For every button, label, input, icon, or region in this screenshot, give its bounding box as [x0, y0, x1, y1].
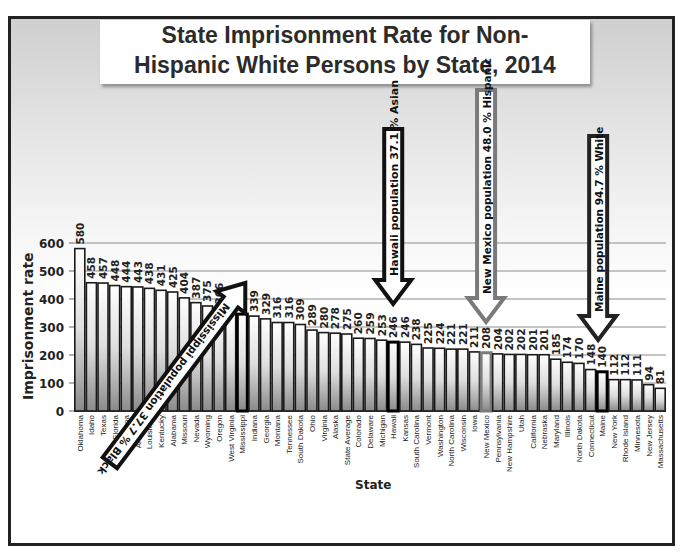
bar-arkansas [133, 287, 143, 411]
x-tick-label: Connecticut [587, 414, 596, 457]
x-tick-label: Texas [99, 415, 108, 436]
bar-value-label: 375 [201, 280, 213, 302]
bar-value-label: 174 [561, 336, 573, 358]
x-tick-label: North Dakota [575, 414, 584, 462]
bar-new-hampshire [504, 354, 514, 411]
x-tick-label: Massachusetts [656, 415, 665, 468]
x-tick-label: Wisconsin [459, 415, 468, 451]
bar-delaware [365, 338, 375, 411]
bar-ohio [307, 330, 317, 411]
x-tick-label: New Mexico [482, 414, 491, 458]
annotation-text: New Mexico population 48.0 % Hispanic [481, 58, 493, 294]
annotation-arrow: Maine population 94.7 % White [580, 127, 616, 340]
bar-value-label: 253 [376, 314, 388, 336]
x-tick-label: Delaware [366, 414, 375, 448]
bar-value-label: 457 [97, 257, 109, 279]
bar-maine [597, 372, 607, 411]
x-tick-label: New York [610, 414, 619, 449]
bar-value-label: 260 [352, 312, 364, 334]
bar-value-label: 202 [503, 329, 515, 351]
bar-value-label: 329 [260, 293, 272, 315]
bar-chart: 0100200300400500600 58045845744844444343… [0, 0, 685, 554]
x-tick-label: Oregon [215, 415, 224, 442]
bar-value-label: 140 [596, 346, 608, 368]
bar-value-label: 309 [294, 299, 306, 321]
bar-texas [98, 283, 108, 411]
bar-oklahoma [75, 249, 85, 411]
bar-value-label: 225 [422, 322, 434, 344]
x-tick-label: Washington [436, 415, 445, 457]
bar-iowa [469, 352, 479, 411]
y-tick-label: 500 [39, 265, 64, 279]
bar-virginia [319, 333, 329, 411]
x-tick-label: North Carolina [447, 414, 456, 466]
bar-mississippi [237, 314, 247, 411]
x-tick-label: Tennessee [285, 414, 294, 453]
x-tick-label: South Carolina [412, 414, 421, 467]
x-tick-label: Nebraska [540, 414, 549, 449]
x-tick-label: Wyoming [203, 415, 212, 448]
bar-value-label: 316 [283, 297, 295, 319]
x-tick-label: Missouri [180, 415, 189, 445]
bar-new-jersey [644, 385, 654, 411]
x-tick-label: Indiana [250, 414, 259, 441]
bar-tennessee [284, 323, 294, 411]
y-tick-label: 0 [56, 405, 64, 419]
bar-montana [272, 323, 282, 411]
x-tick-label: Maryland [552, 415, 561, 448]
bar-michigan [377, 340, 387, 411]
bar-maryland [551, 359, 561, 411]
bar-value-label: 94 [643, 366, 655, 381]
bar-pennsylvania [493, 354, 503, 411]
bar-value-label: 201 [538, 329, 550, 351]
bar-indiana [249, 316, 259, 411]
bar-washington [435, 348, 445, 411]
x-tick-label: State Average [343, 414, 352, 465]
bar-value-label: 202 [515, 329, 527, 351]
bar-connecticut [586, 370, 596, 411]
bar-colorado [353, 338, 363, 411]
bar-california [528, 355, 538, 411]
bar-south-carolina [411, 344, 421, 411]
bar-utah [516, 354, 526, 411]
y-tick-label: 400 [39, 293, 64, 307]
bar-value-label: 444 [120, 261, 132, 283]
x-tick-label: California [529, 414, 538, 448]
bar-alaska [330, 333, 340, 411]
bar-value-label: 438 [143, 262, 155, 284]
bar-north-dakota [574, 363, 584, 411]
bar-hawaii [388, 342, 398, 411]
x-tick-label: Minnesota [633, 414, 642, 451]
bar-value-label: 443 [132, 261, 144, 283]
annotation-arrow: New Mexico population 48.0 % Hispanic [468, 58, 504, 322]
bar-value-label: 204 [492, 328, 504, 350]
annotation-arrow: Hawaii population 37.1 % Asian [375, 80, 411, 304]
bar-value-label: 185 [550, 333, 562, 355]
x-tick-label: Pennsylvania [494, 414, 503, 462]
annotation-text: Maine population 94.7 % White [593, 127, 605, 312]
y-tick-label: 600 [39, 237, 64, 251]
x-tick-label: Alabama [169, 414, 178, 446]
bar-value-label: 339 [248, 290, 260, 312]
bar-value-label: 221 [457, 323, 469, 345]
x-tick-label: New Hampshire [505, 414, 514, 471]
bar-state-average [342, 334, 352, 411]
bar-value-label: 211 [468, 326, 480, 348]
bar-value-label: 238 [410, 318, 422, 340]
x-tick-label: South Dakota [296, 414, 305, 463]
bar-value-label: 170 [573, 337, 585, 359]
bar-value-label: 111 [631, 354, 643, 376]
x-tick-label: Mississippi [238, 415, 247, 454]
bar-value-label: 316 [271, 297, 283, 319]
bar-value-label: 221 [445, 323, 457, 345]
x-tick-label: West Virginia [227, 414, 236, 461]
bar-vermont [423, 348, 433, 411]
x-tick-label: Nevada [192, 414, 201, 442]
bar-minnesota [632, 380, 642, 411]
bar-new-mexico [481, 353, 491, 411]
x-tick-label: New Jersey [645, 415, 654, 457]
x-tick-label: Montana [273, 414, 282, 446]
x-tick-label: Kansas [401, 415, 410, 442]
x-tick-label: Georgia [262, 414, 271, 443]
bar-value-label: 404 [178, 272, 190, 294]
